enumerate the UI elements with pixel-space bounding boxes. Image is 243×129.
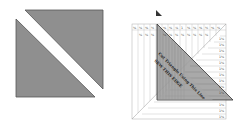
svg-text:⅝: ⅝: [163, 26, 166, 30]
right-panel-ruler: ⅛ ¼ ⅜ ½ ⅝ ¾ ⅞ 1 ⅛ ¼ ⅜ ½ ⅝ ¾ ¼ ¼ ¼ ¼ ¼ ¼ …: [132, 10, 233, 119]
svg-text:1¼: 1¼: [219, 109, 224, 113]
svg-text:¼: ¼: [163, 33, 166, 37]
svg-text:½: ½: [205, 26, 208, 30]
svg-text:¼: ¼: [181, 33, 184, 37]
svg-text:1¼: 1¼: [219, 49, 224, 53]
svg-text:½: ½: [151, 26, 154, 30]
left-panel-split-square: [16, 10, 103, 97]
svg-text:⅛: ⅛: [133, 26, 136, 30]
svg-text:¼: ¼: [139, 33, 142, 37]
svg-text:⅜: ⅜: [199, 26, 202, 30]
svg-text:1¼: 1¼: [219, 67, 224, 71]
svg-text:1¼: 1¼: [219, 91, 224, 95]
svg-text:¼: ¼: [193, 33, 196, 37]
ruler-top-labels: ⅛ ¼ ⅜ ½ ⅝ ¾ ⅞ 1 ⅛ ¼ ⅜ ½ ⅝ ¾: [133, 26, 220, 30]
svg-text:¼: ¼: [151, 33, 154, 37]
svg-text:1¼: 1¼: [219, 61, 224, 65]
svg-text:¼: ¼: [193, 26, 196, 30]
svg-text:1¼: 1¼: [219, 37, 224, 41]
svg-text:1¼: 1¼: [219, 115, 224, 119]
svg-text:⅝: ⅝: [211, 26, 214, 30]
svg-text:¾: ¾: [169, 26, 172, 30]
svg-text:¾: ¾: [217, 26, 220, 30]
svg-text:1¼: 1¼: [219, 55, 224, 59]
svg-text:¼: ¼: [205, 33, 208, 37]
svg-text:¼: ¼: [145, 33, 148, 37]
svg-text:1¼: 1¼: [219, 103, 224, 107]
svg-text:1¼: 1¼: [219, 85, 224, 89]
svg-text:¼: ¼: [175, 33, 178, 37]
small-triangle-marker-icon: [156, 10, 162, 16]
quilting-diagram: ⅛ ¼ ⅜ ½ ⅝ ¾ ⅞ 1 ⅛ ¼ ⅜ ½ ⅝ ¾ ¼ ¼ ¼ ¼ ¼ ¼ …: [0, 0, 243, 129]
svg-text:¼: ¼: [187, 33, 190, 37]
svg-text:⅛: ⅛: [187, 26, 190, 30]
svg-text:⅞: ⅞: [175, 26, 178, 30]
svg-text:1¼: 1¼: [219, 79, 224, 83]
svg-text:¼: ¼: [169, 33, 172, 37]
svg-text:¼: ¼: [139, 26, 142, 30]
ruler-second-row-labels: ¼ ¼ ¼ ¼ ¼ ¼ ¼ ¼ ¼ ¼ ¼: [139, 33, 208, 37]
svg-text:1¼: 1¼: [219, 43, 224, 47]
svg-text:1: 1: [181, 26, 183, 30]
svg-text:¼: ¼: [199, 33, 202, 37]
svg-text:1¼: 1¼: [219, 73, 224, 77]
svg-text:⅜: ⅜: [145, 26, 148, 30]
